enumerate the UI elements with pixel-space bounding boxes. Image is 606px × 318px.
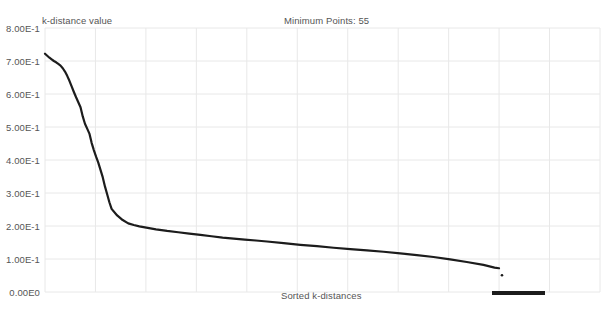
y-axis-label: k-distance value — [42, 15, 112, 26]
chart-title: Minimum Points: 55 — [284, 15, 369, 26]
y-tick-label: 2.00E-1 — [0, 221, 40, 232]
y-tick-label: 7.00E-1 — [0, 56, 40, 67]
plot-area — [45, 28, 600, 292]
y-tick-label: 5.00E-1 — [0, 122, 40, 133]
k-distance-chart: Minimum Points: 55 k-distance value Sort… — [0, 0, 606, 318]
bottom-marker-bar — [492, 291, 545, 295]
data-series-line — [45, 28, 600, 292]
y-tick-label: 0.00E0 — [0, 287, 40, 298]
y-tick-label: 8.00E-1 — [0, 23, 40, 34]
y-tick-label: 1.00E-1 — [0, 254, 40, 265]
y-tick-label: 4.00E-1 — [0, 155, 40, 166]
y-tick-label: 6.00E-1 — [0, 89, 40, 100]
y-tick-label: 3.00E-1 — [0, 188, 40, 199]
